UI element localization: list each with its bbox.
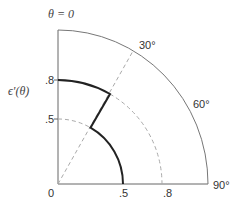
tick-label-v-08: .8 [45,74,54,86]
angle-label-60: 60° [193,98,210,110]
outer-arc [58,30,208,184]
title-theta-zero: θ = 0 [48,7,74,21]
tick-label-v-05: .5 [45,113,54,125]
angle-label-30: 30° [139,39,156,51]
tick-label-h-05: .5 [119,187,128,199]
y-axis-label: ϵ'(θ) [8,84,29,98]
arc-r08-dashed [110,94,162,184]
polar-diagram: θ = 0 ϵ'(θ) .8 .5 0 .5 .8 30° 60° 90° [0,0,242,209]
angle-label-90: 90° [213,179,230,191]
arc-r05-dashed [58,119,91,128]
origin-label: 0 [48,187,54,199]
tick-label-h-08: .8 [163,187,172,199]
